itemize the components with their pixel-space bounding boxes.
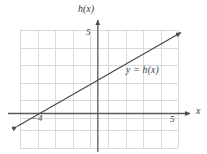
x-axis-label: x [196,106,200,116]
coordinate-plane [0,0,207,154]
graph-figure: h(x) x 5 5 −4 y = h(x) [0,0,207,154]
y-axis-tick-label-5: 5 [86,28,91,37]
curve-equation-label: y = h(x) [126,66,159,76]
x-intercept-label-neg4: −4 [32,114,43,123]
x-axis-tick-label-5: 5 [170,115,175,124]
y-axis-label: h(x) [78,4,94,14]
